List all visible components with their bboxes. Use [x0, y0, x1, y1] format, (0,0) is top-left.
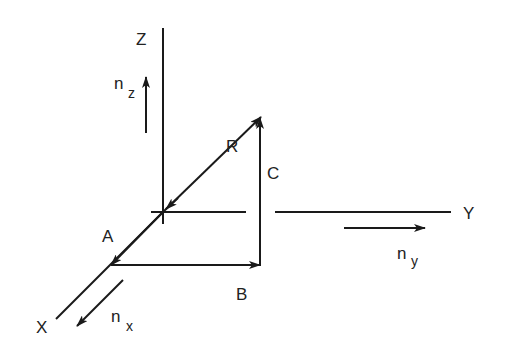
vector-a: [111, 212, 163, 265]
ny-label-sub: y: [411, 253, 418, 269]
point-c-label: C: [267, 164, 279, 183]
vector-origin-arrow: [166, 198, 178, 209]
x-axis-label: X: [36, 318, 47, 337]
y-axis-label: Y: [463, 204, 474, 223]
z-axis-label: Z: [136, 30, 146, 49]
nz-label-base: n: [114, 74, 123, 93]
nx-label-sub: x: [126, 318, 133, 334]
point-b-label: B: [236, 285, 247, 304]
point-r-label: R: [226, 137, 238, 156]
vector-diagram: Z Y X R C A B n z n y n x: [0, 0, 508, 351]
nx-label-base: n: [111, 307, 120, 326]
point-a-label: A: [102, 227, 114, 246]
ny-label-base: n: [397, 244, 406, 263]
nz-label-sub: z: [128, 85, 135, 101]
